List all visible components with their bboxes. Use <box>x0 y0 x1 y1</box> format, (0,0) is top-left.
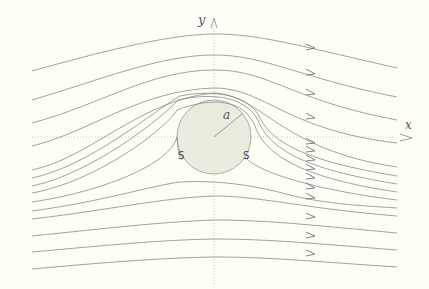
radius-label: a <box>223 108 230 122</box>
flow-diagram <box>0 0 429 289</box>
x-axis-arrow-icon <box>400 134 412 141</box>
separation-point-left: S <box>178 150 184 161</box>
separation-point-right: S <box>243 150 249 161</box>
y-axis-label: y <box>198 12 205 27</box>
x-axis-label: x <box>405 118 412 132</box>
